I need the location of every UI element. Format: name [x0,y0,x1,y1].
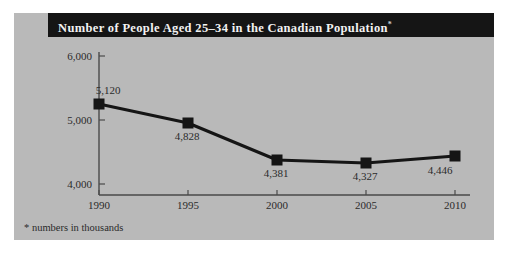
y-tick-label-4000: 4,000 [38,178,92,190]
x-tick-label-2005: 2005 [341,199,391,211]
data-point-1990[interactable] [94,99,105,110]
x-tick-label-1995: 1995 [163,199,213,211]
data-point-2005[interactable] [361,158,372,169]
y-tick-label-6000: 6,000 [38,50,92,62]
data-label-2005: 4,327 [339,170,391,182]
figure: Number of People Aged 25–34 in the Canad… [0,0,508,253]
x-tick-label-1990: 1990 [74,199,124,211]
x-tick-label-2000: 2000 [252,199,302,211]
data-markers [94,99,461,169]
data-label-1990: 5,120 [82,84,134,96]
data-line [99,104,455,163]
data-label-1995: 4,828 [161,130,213,142]
data-point-1995[interactable] [183,118,194,129]
data-label-2010: 4,446 [414,164,466,176]
data-point-2000[interactable] [272,155,283,166]
line-chart: 6,000 5,000 4,000 1990 1995 2000 2005 20… [0,0,508,253]
data-label-2000: 4,381 [250,167,302,179]
chart-footnote: * numbers in thousands [24,222,123,233]
y-tick-label-5000: 5,000 [38,114,92,126]
x-tick-label-2010: 2010 [430,199,480,211]
data-point-2010[interactable] [450,151,461,162]
chart-svg [0,0,508,253]
